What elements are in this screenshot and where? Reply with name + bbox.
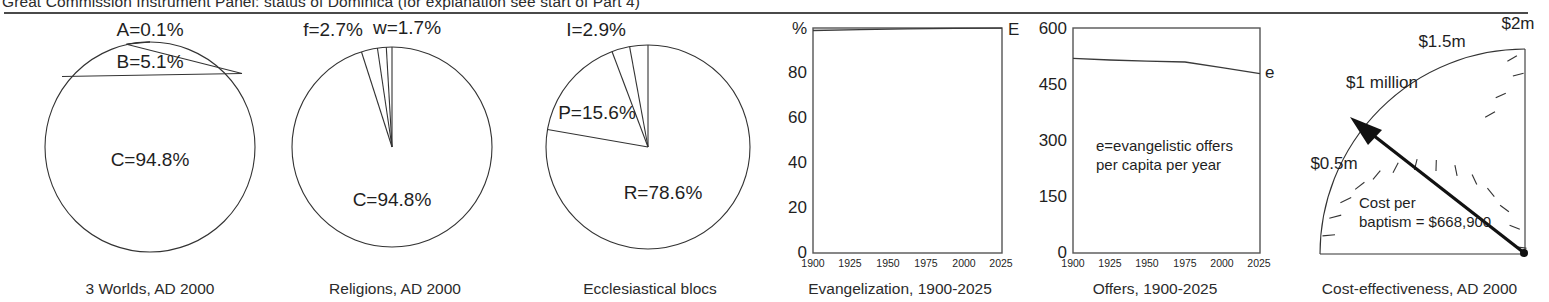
x-tick-1975: 1975	[1173, 257, 1197, 269]
series-label-e: e	[1265, 63, 1274, 82]
panel-three-worlds: A=0.1% B=5.1% C=94.8% 3 Worlds, AD 2000	[0, 14, 300, 302]
pie-label-w: w=1.7%	[372, 17, 441, 38]
x-tick-1975: 1975	[914, 257, 938, 269]
panel-ecclesiastical-blocs: I=2.9% P=15.6% R=78.6% Ecclesiastical bl…	[520, 14, 780, 302]
pie-divider-f	[377, 48, 392, 147]
y-tick-80: 80	[788, 63, 807, 82]
gauge-readout-line-1: Cost per	[1359, 194, 1416, 211]
gauge-scale-label-0: $0.5m	[1310, 154, 1357, 173]
x-tick-1900: 1900	[801, 257, 825, 269]
x-tick-2000: 2000	[1210, 257, 1234, 269]
y-tick-300: 300	[1039, 131, 1067, 150]
x-tick-2000: 2000	[952, 257, 976, 269]
y-tick-600: 600	[1039, 19, 1067, 38]
gauge-scale-label-3: $2m	[1501, 14, 1534, 33]
chart-annotation-line-1: e=evangelistic offers	[1096, 137, 1233, 154]
gauge-scale-label-1: $1 million	[1346, 73, 1418, 92]
pie-chart-religions: f=2.7% w=1.7% C=94.8%	[270, 14, 520, 276]
gauge-readout-line-2: baptism = $668,900	[1359, 213, 1491, 230]
panel-religions: f=2.7% w=1.7% C=94.8% Religions, AD 2000	[270, 14, 520, 302]
gauge-chart-cost-effectiveness: $0.5m $1 million $1.5m $2m Cost per bapt…	[1290, 14, 1549, 276]
panel-caption-cost-effectiveness: Cost-effectiveness, AD 2000	[1290, 280, 1549, 298]
y-tick-60: 60	[788, 108, 807, 127]
x-tick-1925: 1925	[838, 257, 862, 269]
pie-label-r: R=78.6%	[624, 182, 703, 203]
panel-caption-evangelization: Evangelization, 1900-2025	[770, 280, 1030, 298]
chart-annotation-line-2: per capita per year	[1096, 156, 1221, 173]
pie-chart-ecclesiastical-blocs: I=2.9% P=15.6% R=78.6%	[520, 14, 780, 276]
panel-caption-three-worlds: 3 Worlds, AD 2000	[0, 280, 300, 298]
pie-divider-p	[548, 130, 649, 148]
pie-label-p: P=15.6%	[558, 102, 636, 123]
pie-label-f: f=2.7%	[303, 19, 363, 40]
panel-cost-effectiveness: $0.5m $1 million $1.5m $2m Cost per bapt…	[1290, 14, 1549, 302]
line-chart-evangelization: % 80 60 40 20 0 1900 1925 1950 1975 2000…	[770, 14, 1030, 276]
panel-offers: 600 450 300 150 0 1900 1925 1950 1975 20…	[1020, 14, 1290, 302]
gauge-needle	[1350, 117, 1528, 257]
x-tick-2025: 2025	[1247, 257, 1271, 269]
x-tick-1950: 1950	[1135, 257, 1159, 269]
panel-caption-religions: Religions, AD 2000	[270, 280, 520, 298]
y-axis-unit-label: %	[792, 19, 807, 38]
x-tick-2025: 2025	[989, 257, 1013, 269]
gauge-scale-label-2: $1.5m	[1418, 32, 1465, 51]
page-title: Great Commission Instrument Panel: statu…	[2, 0, 640, 11]
panel-caption-offers: Offers, 1900-2025	[1020, 280, 1290, 298]
y-tick-40: 40	[788, 153, 807, 172]
pie-label-c: C=94.8%	[111, 149, 190, 170]
plot-frame	[813, 28, 1002, 253]
series-line-e	[1073, 58, 1260, 73]
pie-label-b: B=5.1%	[116, 51, 183, 72]
pie-divider-i	[630, 47, 648, 147]
pie-divider-mid	[612, 52, 648, 148]
x-tick-1900: 1900	[1061, 257, 1085, 269]
line-chart-offers: 600 450 300 150 0 1900 1925 1950 1975 20…	[1020, 14, 1290, 276]
x-tick-1950: 1950	[876, 257, 900, 269]
y-tick-450: 450	[1039, 75, 1067, 94]
y-tick-20: 20	[788, 198, 807, 217]
series-label-e: E	[1008, 20, 1019, 39]
panel-caption-ecclesiastical-blocs: Ecclesiastical blocs	[520, 280, 780, 298]
instrument-panel-page: Great Commission Instrument Panel: statu…	[0, 0, 1549, 302]
x-tick-1925: 1925	[1098, 257, 1122, 269]
pie-slice-b-chord	[62, 74, 242, 77]
pie-label-a: A=0.1%	[116, 19, 183, 40]
pie-label-c: C=94.8%	[353, 189, 432, 210]
pie-label-i: I=2.9%	[566, 19, 626, 40]
pie-chart-three-worlds: A=0.1% B=5.1% C=94.8%	[0, 14, 300, 276]
y-tick-150: 150	[1039, 187, 1067, 206]
panel-evangelization: % 80 60 40 20 0 1900 1925 1950 1975 2000…	[770, 14, 1030, 302]
